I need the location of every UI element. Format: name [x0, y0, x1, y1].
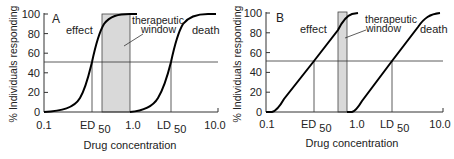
y-axis-title-b: % Individuals responding: [231, 5, 243, 122]
ld50-label-b: LD50: [380, 118, 409, 134]
svg-text:1.0: 1.0: [125, 119, 140, 131]
svg-text:0: 0: [256, 106, 262, 118]
therapeutic-window-shade-a: [102, 14, 130, 112]
x-tick-labels-a: 0.1 1.0 10.0: [36, 119, 225, 131]
svg-text:0.1: 0.1: [259, 118, 274, 130]
death-label-a: death: [192, 24, 220, 36]
x-tick-labels-b: 0.1 1.0 10.0: [259, 118, 450, 130]
panel-a: 100 80 60 40 20 0 0.1 1.0 10.0 ED50 LD50…: [7, 5, 226, 151]
svg-text:0: 0: [34, 106, 40, 118]
svg-text:1.0: 1.0: [349, 118, 364, 130]
svg-text:100: 100: [22, 8, 40, 20]
effect-label-a: effect: [66, 24, 93, 36]
y-tick-labels-a: 100 80 60 40 20 0: [22, 8, 40, 118]
therapeutic-pointer-b: [345, 30, 366, 38]
svg-text:40: 40: [250, 66, 262, 78]
ld50-label-a: LD50: [157, 119, 186, 135]
panel-label-b: B: [276, 11, 284, 25]
ed50-label-a: ED50: [80, 119, 111, 135]
svg-text:40: 40: [28, 67, 40, 79]
effect-label-b: effect: [300, 23, 327, 35]
svg-text:10.0: 10.0: [429, 118, 450, 130]
svg-text:0.1: 0.1: [36, 119, 51, 131]
svg-text:20: 20: [250, 86, 262, 98]
svg-text:100: 100: [244, 7, 262, 19]
dose-response-figure: 100 80 60 40 20 0 0.1 1.0 10.0 ED50 LD50…: [0, 0, 454, 159]
svg-text:80: 80: [250, 27, 262, 39]
window-label-a: window: [140, 23, 176, 35]
y-axis-title-a: % Individuals responding: [7, 5, 19, 122]
svg-text:60: 60: [250, 47, 262, 59]
death-label-b: death: [420, 23, 448, 35]
panel-b: 100 80 60 40 20 0 0.1 1.0 10.0 ED50 LD50…: [231, 5, 451, 149]
svg-text:60: 60: [28, 47, 40, 59]
window-label-b: window: [365, 22, 401, 34]
y-tick-labels-b: 100 80 60 40 20 0: [244, 7, 262, 118]
svg-text:20: 20: [28, 86, 40, 98]
svg-text:10.0: 10.0: [204, 119, 225, 131]
ed50-label-b: ED50: [301, 118, 332, 134]
x-axis-title-b: Drug concentration: [306, 137, 399, 149]
svg-text:80: 80: [28, 28, 40, 40]
x-axis-title-a: Drug concentration: [84, 139, 177, 151]
panel-label-a: A: [52, 12, 60, 26]
